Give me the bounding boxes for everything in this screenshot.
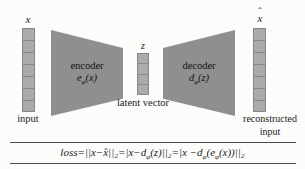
formula-bottom-rule <box>10 163 296 164</box>
formula-top-rule <box>10 142 296 143</box>
loss-formula: loss=||x−x̂||₂=|x−dφ(z)||₂=|x −dφ(eφ(x))… <box>0 146 305 161</box>
latent-vector-bar <box>137 53 149 95</box>
output-symbol-xhat: ˆx <box>250 8 270 22</box>
autoencoder-diagram: x input encoder eφ(x) z latent vector de… <box>0 0 305 169</box>
input-vector-bar <box>22 28 35 112</box>
latent-symbol-z: z <box>136 40 150 51</box>
decoder-title: decoder <box>182 60 215 71</box>
reconstructed-caption: reconstructed input <box>236 113 304 138</box>
reconstructed-vector-bar <box>253 28 266 112</box>
encoder-function-label: eφ(x) <box>77 72 97 86</box>
input-caption: input <box>6 113 50 126</box>
input-symbol-x: x <box>21 13 35 25</box>
encoder-title: encoder <box>70 60 103 71</box>
decoder-function-label: dφ(z) <box>189 72 209 86</box>
